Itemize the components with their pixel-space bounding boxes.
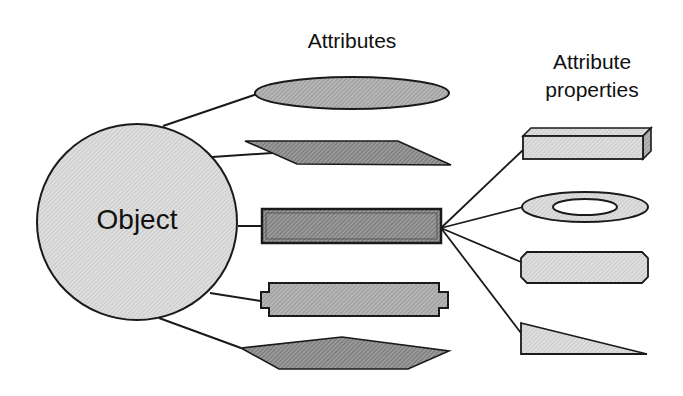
attribute-notched-rectangle <box>261 283 448 316</box>
property-3d-box <box>523 128 651 159</box>
properties-heading-line2: properties <box>522 79 662 100</box>
connector-object-notched-rect <box>210 293 261 301</box>
attribute-hexagon <box>241 337 449 369</box>
property-octagon <box>521 252 648 283</box>
connector-bar-box <box>441 150 523 228</box>
connector-bar-triangle <box>441 228 521 333</box>
object-label: Object <box>62 206 212 234</box>
connector-object-hexagon <box>159 318 241 348</box>
attributes-heading: Attributes <box>272 30 432 51</box>
connector-object-parallelogram <box>212 153 272 157</box>
property-right-triangle <box>521 323 647 354</box>
properties-heading-line1: Attribute <box>522 51 662 72</box>
property-connectors <box>441 150 523 333</box>
attribute-parallelogram <box>245 141 451 165</box>
attribute-bar <box>262 209 441 243</box>
property-ring <box>522 192 648 222</box>
attribute-ellipse <box>255 77 449 109</box>
connector-object-ellipse <box>163 94 257 126</box>
